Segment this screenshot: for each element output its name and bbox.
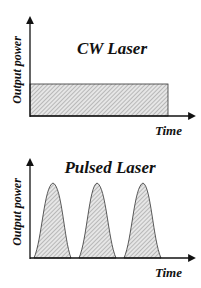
pulsed-xlabel: Time [155, 265, 182, 280]
pulse-3 [124, 183, 161, 258]
cw-output-area [30, 84, 168, 116]
pulse-2 [79, 183, 116, 258]
cw-ylabel: Output power [10, 36, 24, 104]
pulsed-ylabel: Output power [10, 178, 24, 246]
pulsed-laser-panel: Pulsed Laser Time Output power [10, 158, 192, 280]
cw-xlabel: Time [155, 123, 182, 138]
laser-comparison-diagram: CW Laser Time Output power Pulsed Laser … [0, 0, 201, 288]
pulse-1 [34, 183, 71, 258]
pulsed-title: Pulsed Laser [63, 158, 156, 177]
cw-laser-panel: CW Laser Time Output power [10, 20, 192, 138]
cw-title: CW Laser [77, 39, 147, 58]
